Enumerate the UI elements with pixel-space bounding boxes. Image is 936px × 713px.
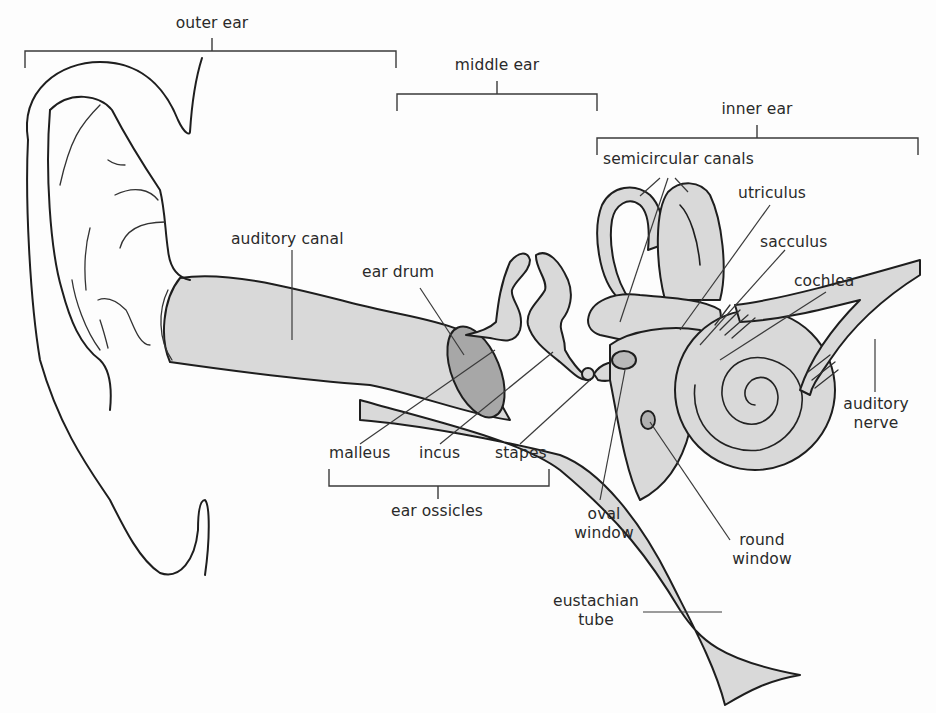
- label-eustachian-tube-line2: tube: [553, 611, 639, 630]
- semicircular-canals-shape: [588, 183, 724, 345]
- label-oval-window: oval window: [574, 505, 633, 543]
- label-round-window-line1: round: [732, 531, 791, 550]
- label-ear-ossicles: ear ossicles: [391, 502, 483, 521]
- ear-illustration: [0, 0, 936, 713]
- label-auditory-nerve-line1: auditory: [843, 395, 908, 414]
- label-round-window: round window: [732, 531, 791, 569]
- label-auditory-nerve: auditory nerve: [843, 395, 908, 433]
- label-auditory-nerve-line2: nerve: [843, 414, 908, 433]
- label-malleus: malleus: [329, 444, 390, 463]
- label-ear-drum: ear drum: [362, 263, 434, 282]
- ear-anatomy-diagram: outer ear middle ear inner ear auditory …: [0, 0, 936, 713]
- label-round-window-line2: window: [732, 550, 791, 569]
- label-oval-window-line2: window: [574, 524, 633, 543]
- label-eustachian-tube: eustachian tube: [553, 592, 639, 630]
- ear-ossicles-bracket: [329, 469, 549, 499]
- label-middle-ear: middle ear: [455, 56, 539, 75]
- label-incus: incus: [419, 444, 460, 463]
- label-cochlea: cochlea: [794, 272, 854, 291]
- label-auditory-canal: auditory canal: [231, 230, 344, 249]
- label-utriculus: utriculus: [738, 184, 806, 203]
- oval-window-shape: [612, 351, 636, 369]
- label-eustachian-tube-line1: eustachian: [553, 592, 639, 611]
- label-stapes: stapes: [495, 444, 547, 463]
- label-outer-ear: outer ear: [176, 14, 249, 33]
- middle-ear-bracket: [397, 81, 597, 111]
- label-oval-window-line1: oval: [574, 505, 633, 524]
- label-inner-ear: inner ear: [721, 100, 792, 119]
- label-semicircular-canals: semicircular canals: [603, 150, 754, 169]
- label-sacculus: sacculus: [760, 233, 827, 252]
